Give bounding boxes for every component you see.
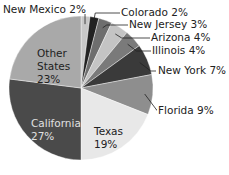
label-texas: Texas 19% [94, 125, 123, 151]
label-florida: Florida 9% [158, 104, 214, 117]
label-new-jersey: New Jersey 3% [129, 18, 207, 31]
label-texas-pct: 19% [94, 138, 123, 151]
label-other-states-name-2: States [37, 60, 70, 73]
label-other-states: Other States 23% [37, 47, 70, 86]
label-arizona: Arizona 4% [151, 31, 210, 44]
label-california: California 27% [31, 117, 81, 143]
label-other-states-name-1: Other [37, 47, 70, 60]
label-other-states-pct: 23% [37, 73, 70, 86]
label-texas-name: Texas [94, 125, 123, 138]
label-colorado: Colorado 2% [121, 6, 188, 19]
label-california-name: California [31, 117, 81, 130]
label-illinois: Illinois 4% [152, 44, 205, 57]
label-california-pct: 27% [31, 130, 81, 143]
label-new-york: New York 7% [158, 64, 226, 77]
label-new-mexico: New Mexico 2% [3, 3, 86, 16]
pie-chart: New Mexico 2% Colorado 2% New Jersey 3% … [0, 0, 229, 175]
